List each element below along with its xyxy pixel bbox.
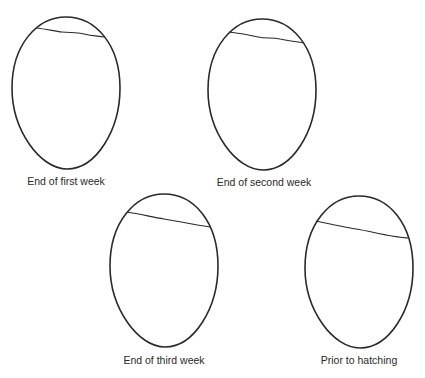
egg-outline [305,196,413,348]
egg-diagram [0,0,425,378]
egg-outline [208,19,316,170]
egg-third-week [110,194,218,347]
egg-second-week [208,19,316,170]
label-first-week: End of first week [27,175,105,187]
air-cell-line [316,221,409,238]
egg-outline [12,17,120,169]
air-cell-line [229,32,304,43]
air-cell-line [36,28,104,37]
label-second-week: End of second week [217,176,312,188]
air-cell-line [127,212,210,227]
label-prior-hatching: Prior to hatching [321,354,397,366]
label-third-week: End of third week [123,354,204,366]
egg-first-week [12,17,120,169]
egg-outline [110,194,218,347]
egg-prior-hatching [305,196,413,348]
